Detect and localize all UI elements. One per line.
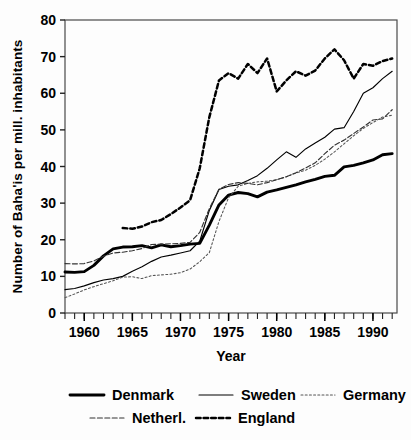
- y-tick-label: 40: [40, 159, 56, 175]
- y-tick-label: 70: [40, 49, 56, 65]
- legend-label-england: England: [238, 410, 295, 426]
- y-tick-label: 60: [40, 85, 56, 101]
- y-tick-label: 30: [40, 195, 56, 211]
- line-chart: 01020304050607080 1960196519701975198019…: [0, 0, 411, 440]
- y-tick-label: 20: [40, 232, 56, 248]
- chart-legend: DenmarkSwedenGermanyNetherl.England: [70, 387, 406, 426]
- series-line-england: [123, 49, 392, 228]
- x-tick-label: 1990: [357, 324, 388, 340]
- legend-label-germany: Germany: [343, 387, 406, 403]
- series-lines: [65, 49, 392, 297]
- series-line-denmark: [65, 154, 392, 273]
- x-tick-label: 1965: [117, 324, 148, 340]
- series-line-sweden: [65, 71, 392, 289]
- x-tick-label: 1980: [261, 324, 292, 340]
- x-axis-ticks: 1960196519701975198019851990: [65, 313, 392, 340]
- chart-figure: 01020304050607080 1960196519701975198019…: [0, 0, 411, 440]
- y-tick-label: 0: [48, 305, 56, 321]
- y-tick-label: 80: [40, 12, 56, 28]
- y-tick-label: 50: [40, 122, 56, 138]
- legend-label-denmark: Denmark: [112, 387, 175, 403]
- y-axis-ticks: 01020304050607080: [40, 12, 65, 321]
- x-tick-label: 1960: [69, 324, 100, 340]
- x-axis-title: Year: [216, 348, 246, 364]
- x-tick-label: 1985: [309, 324, 340, 340]
- legend-label-netherl: Netherl.: [132, 410, 186, 426]
- x-tick-label: 1970: [165, 324, 196, 340]
- y-tick-label: 10: [40, 268, 56, 284]
- legend-label-sweden: Sweden: [241, 387, 296, 403]
- series-line-germany: [65, 115, 392, 297]
- y-axis-title: Number of Baha'is per mill. inhabitants: [10, 40, 25, 294]
- x-tick-label: 1975: [213, 324, 244, 340]
